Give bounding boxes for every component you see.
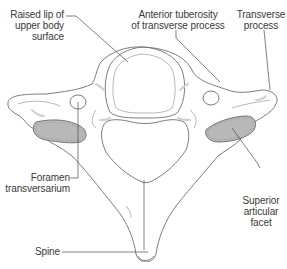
raised-lip-inner [113,54,175,113]
label-raised-lip: Raised lip of upper body surface [2,9,64,42]
foramen-transversarium-right [203,91,219,105]
vertebral-body [105,47,184,118]
label-anterior-tuberosity: Anterior tuberosity of transverse proces… [128,9,228,31]
label-foramen-transversarium: Foramen transversarium [4,172,70,194]
leader-transverse-process [264,30,270,90]
outer-contour [8,47,277,261]
vertebral-foramen [102,120,189,183]
superior-articular-facets [33,116,255,143]
label-transverse-process: Transverse process [236,9,286,31]
spine-tip [138,256,154,261]
leader-anterior-tuberosity [176,30,220,82]
label-superior-articular-facet: Superior articular facet [236,195,286,228]
spine-shading [126,206,131,218]
facet-right [206,116,256,142]
label-spine: Spine [20,246,60,257]
vertebra-outline [8,47,277,261]
bone-shading [32,84,266,120]
